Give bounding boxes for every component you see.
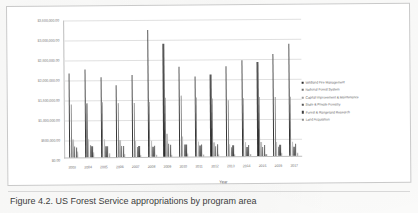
bar-group-2003	[65, 20, 82, 157]
x-axis-tick-label: 2010	[175, 165, 191, 169]
bar	[124, 154, 125, 157]
y-axis-tick-label: $3,000,000.00	[15, 39, 59, 43]
bar	[171, 154, 172, 156]
bar-group-2015	[253, 19, 270, 156]
bar	[77, 152, 78, 158]
legend-label: Land Acquisition	[306, 117, 330, 121]
bar-group-2010	[175, 20, 192, 157]
bar-group-2016	[269, 19, 286, 156]
bar	[265, 154, 266, 156]
bar-group-2017	[285, 19, 302, 156]
legend-label: National Forest System	[305, 88, 339, 92]
x-axis-tick-label: 2014	[239, 164, 255, 168]
bar-group-2012	[206, 19, 223, 156]
x-axis-title: Year	[8, 178, 410, 186]
bar	[297, 153, 298, 156]
bar	[187, 154, 188, 157]
caption-divider	[8, 191, 410, 192]
x-axis-tick-label: 2004	[80, 165, 96, 169]
y-axis-tick-labels: $3,500,000.00$3,000,000.00$2,500,000.00$…	[7, 4, 409, 7]
chart-plot-wrapper: Amount Enacted (in thousands) $3,500,000…	[7, 4, 410, 185]
y-axis-tick-label: $0.00	[16, 159, 60, 163]
legend-item: Land Acquisition	[302, 117, 406, 122]
legend-item: Wildland Fire Management	[302, 80, 406, 85]
x-axis-tick-label: 2017	[286, 164, 302, 168]
bar	[140, 155, 141, 157]
chart-legend: Wildland Fire ManagementNational Forest …	[302, 80, 406, 122]
y-axis-tick-label: $1,000,000.00	[16, 119, 60, 123]
bar	[109, 153, 110, 157]
x-axis-tick-label: 2003	[64, 165, 80, 169]
bar	[93, 152, 94, 157]
bar-group-2004	[81, 20, 98, 157]
bar	[203, 154, 204, 156]
chart-bars	[64, 19, 302, 158]
x-axis-tick-labels: 2003200420052006200720082009201020112012…	[64, 164, 302, 170]
x-axis-tick-label: 2005	[96, 165, 112, 169]
legend-item: State & Private Forestry	[302, 102, 406, 107]
bar	[234, 154, 235, 156]
chart-plot-area	[63, 19, 302, 159]
y-axis-tick-label: $2,000,000.00	[16, 79, 60, 83]
legend-swatch-icon	[302, 82, 304, 84]
document-page: Amount Enacted (in thousands) $3,500,000…	[0, 0, 418, 213]
x-axis-tick-label: 2011	[191, 164, 207, 168]
x-axis-tick-label: 2009	[159, 165, 175, 169]
bar-group-2006	[112, 20, 129, 157]
legend-item: National Forest System	[302, 87, 406, 92]
bar-group-2005	[96, 20, 113, 157]
legend-label: Forest & Rangeland Research	[306, 110, 350, 114]
y-axis-tick-label: $2,500,000.00	[15, 59, 59, 63]
bar	[156, 155, 157, 157]
x-axis-tick-label: 2012	[207, 164, 223, 168]
y-axis-tick-label: $500,000.00	[16, 139, 60, 143]
legend-label: State & Private Forestry	[306, 103, 341, 107]
x-axis-tick-label: 2008	[144, 165, 160, 169]
legend-label: Wildland Fire Management	[305, 80, 344, 84]
y-axis-tick-label: $3,500,000.00	[15, 19, 59, 23]
legend-swatch-icon	[302, 119, 304, 121]
bar	[218, 154, 219, 156]
legend-item: Forest & Rangeland Research	[302, 109, 406, 114]
figure-chart-frame: Amount Enacted (in thousands) $3,500,000…	[6, 3, 411, 186]
x-axis-tick-label: 2006	[112, 165, 128, 169]
x-axis-tick-label: 2016	[270, 164, 286, 168]
x-axis-tick-label: 2013	[223, 164, 239, 168]
y-axis-tick-label: $1,500,000.00	[16, 99, 60, 103]
bar-group-2011	[190, 19, 207, 156]
bar-group-2014	[238, 19, 255, 156]
bar-group-2008	[143, 20, 160, 157]
bar-group-2009	[159, 20, 176, 157]
bar	[250, 154, 251, 156]
bar	[281, 153, 282, 156]
legend-swatch-icon	[302, 96, 304, 98]
bar-group-2007	[128, 20, 145, 157]
figure-caption: Figure 4.2. US Forest Service appropriat…	[10, 196, 410, 206]
x-axis-tick-label: 2007	[128, 165, 144, 169]
legend-swatch-icon	[302, 104, 304, 106]
x-axis-tick-label: 2015	[255, 164, 271, 168]
legend-item: Capital Improvement & Maintenance	[302, 95, 406, 100]
legend-swatch-icon	[302, 89, 304, 91]
legend-swatch-icon	[302, 111, 304, 113]
bar-group-2013	[222, 19, 239, 156]
legend-label: Capital Improvement & Maintenance	[305, 95, 358, 99]
